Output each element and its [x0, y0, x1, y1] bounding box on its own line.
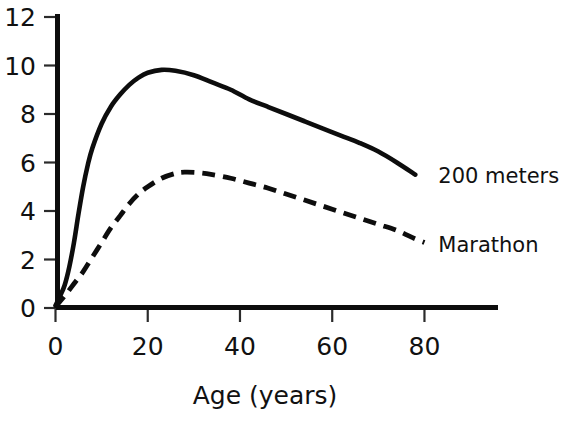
x-tick-label: 60 [316, 332, 348, 361]
x-tick-label: 0 [48, 332, 64, 361]
x-tick-label: 80 [409, 332, 441, 361]
y-tick-label: 0 [20, 294, 36, 323]
x-tick-label: 20 [132, 332, 164, 361]
series-label-marathon: Marathon [438, 233, 538, 257]
x-tick-label: 40 [224, 332, 256, 361]
x-axis-tick-labels: 020406080 [48, 332, 441, 361]
y-tick-label: 8 [20, 100, 36, 129]
y-tick-label: 10 [4, 52, 36, 81]
series-label-200-meters: 200 meters [438, 164, 559, 188]
y-tick-label: 6 [20, 149, 36, 178]
y-tick-label: 2 [20, 246, 36, 275]
y-tick-label: 12 [4, 3, 36, 32]
y-axis-tick-labels: 024681012 [4, 3, 36, 323]
chart-canvas: 024681012 020406080 200 meters Marathon … [0, 0, 566, 427]
series-line-200-meters [56, 70, 416, 306]
chart-container: 024681012 020406080 200 meters Marathon … [0, 0, 566, 427]
y-tick-label: 4 [20, 197, 36, 226]
x-axis-title: Age (years) [193, 381, 338, 410]
series-line-marathon [56, 172, 425, 307]
